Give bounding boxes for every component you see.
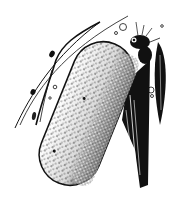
ink-illustration bbox=[0, 0, 178, 202]
illustration-canvas: ink drawing of an elongated stippled egg… bbox=[0, 0, 178, 202]
